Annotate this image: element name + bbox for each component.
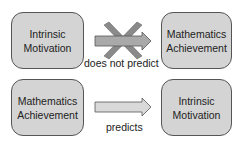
box-mathematics-achievement-top: Mathematics Achievement — [161, 12, 232, 69]
box-text-line2: Achievement — [17, 108, 78, 122]
box-text-line2: Motivation — [173, 108, 221, 122]
box-mathematics-achievement-bottom: Mathematics Achievement — [11, 79, 84, 136]
box-text-line2: Achievement — [166, 41, 227, 55]
box-intrinsic-motivation-top: Intrinsic Motivation — [11, 12, 84, 69]
arrow-right-icon — [92, 97, 154, 117]
box-intrinsic-motivation-bottom: Intrinsic Motivation — [161, 79, 232, 136]
box-text-line1: Mathematics — [18, 94, 78, 108]
box-text-line2: Motivation — [24, 41, 72, 55]
relation-label-does-not-predict: does not predict — [84, 57, 159, 69]
crossed-arrow-icon — [92, 22, 154, 60]
box-text-line1: Mathematics — [167, 27, 227, 41]
box-text-line1: Intrinsic — [29, 27, 65, 41]
relation-label-predicts: predicts — [106, 121, 143, 133]
box-text-line1: Intrinsic — [178, 94, 214, 108]
